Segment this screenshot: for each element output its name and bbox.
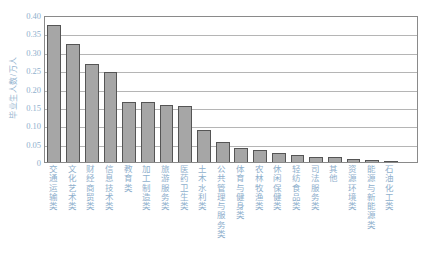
x-axis-tick-label: 教育类 [119,165,138,193]
bar [328,157,342,162]
bar [384,161,398,163]
y-axis-tick-label: 0.40 [10,12,41,20]
x-axis-tick-label: 轻纺食品类 [287,165,306,211]
bar [234,148,248,162]
bar [85,64,99,162]
x-axis-tick-label: 土木水利类 [194,165,213,211]
x-axis-tick-label: 资源环境类 [343,165,362,211]
plot-area [44,16,418,163]
bar-chart: 毕业生人数/万人 0.400.350.300.250.200.150.100.0… [0,0,428,266]
y-axis-tick-labels: 0.400.350.300.250.200.150.100.050 [10,16,41,163]
x-axis-tick-label: 旅游服务类 [156,165,175,211]
y-axis-tick-label: 0.05 [10,141,41,149]
y-axis-tick-label: 0.20 [10,86,41,94]
x-axis-tick-label: 体育与健身类 [231,165,250,221]
bar [122,102,136,162]
bar [272,153,286,162]
bar [347,159,361,162]
y-axis-tick-label: 0.35 [10,30,41,38]
bar [178,106,192,162]
bar [197,130,211,162]
x-axis-tick-label: 农林牧渔类 [250,165,269,211]
bar [365,160,379,162]
x-axis-tick-label: 其他 [325,165,344,184]
bar-series [45,17,417,162]
x-axis-tick-label: 石油化工类 [381,165,400,211]
y-axis-tick-label: 0.30 [10,49,41,57]
bar [47,25,61,162]
x-axis-tick-label: 信息技术类 [100,165,119,211]
x-axis-tick-label: 医药卫生类 [175,165,194,211]
bar [253,150,267,162]
bar [160,105,174,162]
bar [141,102,155,162]
x-axis-tick-label: 能源与新能源类 [362,165,381,230]
bar [104,72,118,162]
y-axis-tick-label: 0.10 [10,122,41,130]
x-axis-tick-label: 休闲保健类 [268,165,287,211]
x-axis-tick-label: 交通运输类 [44,165,63,211]
y-axis-tick-label: 0.25 [10,67,41,75]
bar [66,44,80,162]
y-axis-tick-label: 0.15 [10,104,41,112]
x-axis-tick-label: 公共管理与服务类 [212,165,231,239]
y-axis-tick-label: 0 [10,159,41,167]
x-axis-tick-label: 司法服务类 [306,165,325,211]
x-axis-tick-label: 文化艺术类 [63,165,82,211]
x-axis-tick-label: 财经商贸类 [81,165,100,211]
bar [216,142,230,162]
x-axis-tick-label: 加工制造类 [138,165,157,211]
bar [309,157,323,163]
bar [291,155,305,162]
x-axis-tick-labels: 交通运输类文化艺术类财经商贸类信息技术类教育类加工制造类旅游服务类医药卫生类土木… [44,165,418,266]
